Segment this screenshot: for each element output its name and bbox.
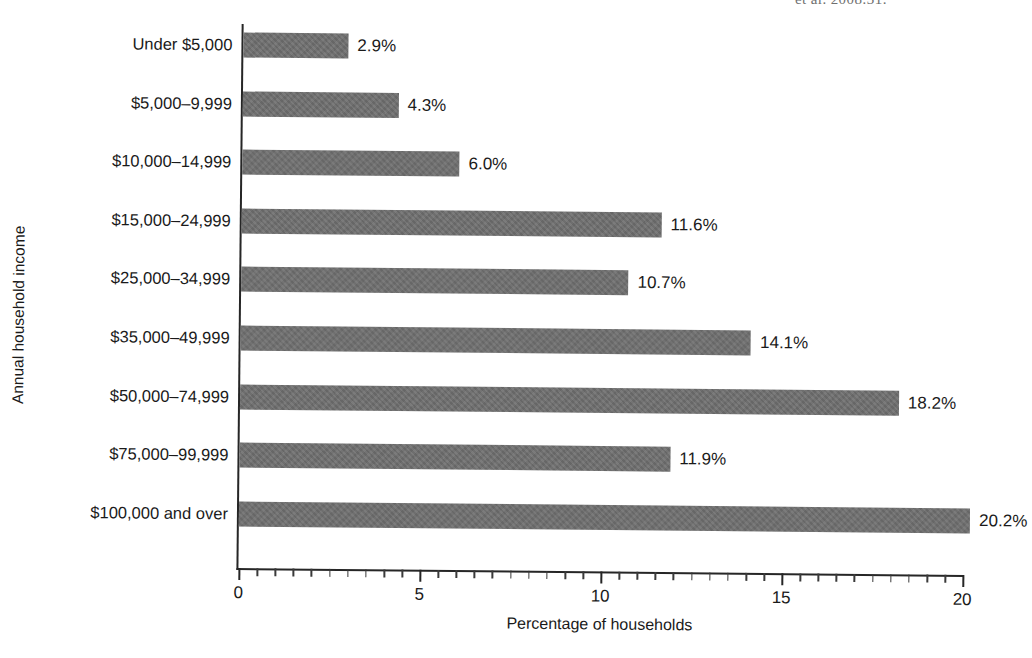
category-label: $5,000–9,999	[131, 93, 241, 113]
x-tick-minor	[546, 571, 548, 579]
x-tick-major	[781, 573, 783, 585]
x-tick-minor	[256, 568, 258, 576]
x-tick-minor	[890, 574, 892, 582]
bar-value-label: 2.9%	[348, 36, 396, 56]
bar-value-label: 6.0%	[459, 154, 507, 174]
category-label: $15,000–24,999	[111, 210, 239, 230]
x-tick-major	[962, 575, 964, 587]
bar-row: $10,000–14,9996.0%	[1, 146, 1028, 184]
bar-row: $15,000–24,99911.6%	[1, 204, 1028, 242]
bar-value-label: 20.2%	[970, 511, 1027, 532]
bar-value-label: 10.7%	[628, 273, 685, 294]
x-tick-minor	[709, 573, 711, 581]
x-tick-minor	[763, 573, 765, 581]
x-tick-major	[238, 568, 240, 580]
x-tick-minor	[528, 571, 530, 579]
x-tick-label: 15	[772, 588, 791, 608]
bar-row: $50,000–74,99918.2%	[0, 380, 1026, 418]
bar	[239, 443, 670, 472]
category-label: $10,000–14,999	[112, 151, 240, 171]
x-tick-minor	[564, 571, 566, 579]
x-tick-minor	[944, 575, 946, 583]
x-tick-minor	[365, 569, 367, 577]
x-tick-minor	[872, 574, 874, 582]
category-label: $35,000–49,999	[110, 327, 238, 347]
bar-value-label: 18.2%	[899, 393, 956, 414]
bar-row: $35,000–49,99914.1%	[0, 322, 1027, 360]
x-tick-minor	[673, 572, 675, 580]
x-tick-minor	[437, 570, 439, 578]
category-label: $75,000–99,999	[109, 444, 237, 464]
x-tick-minor	[311, 569, 313, 577]
x-tick-minor	[492, 570, 494, 578]
x-tick-minor	[727, 573, 729, 581]
x-tick-minor	[691, 572, 693, 580]
x-tick-minor	[908, 574, 910, 582]
bar	[240, 384, 899, 415]
x-axis-title: Percentage of households	[236, 612, 963, 637]
x-tick-minor	[329, 569, 331, 577]
x-tick-minor	[347, 569, 349, 577]
x-tick-minor	[275, 568, 277, 576]
bar-row: $25,000–34,99910.7%	[0, 263, 1027, 301]
bar-row: Under $5,0002.9%	[2, 29, 1029, 67]
x-tick-label: 5	[414, 585, 424, 605]
x-tick-major	[600, 571, 602, 583]
bar	[241, 326, 752, 356]
category-label: Under $5,000	[132, 34, 241, 54]
x-tick-minor	[582, 571, 584, 579]
x-tick-major	[419, 570, 421, 582]
x-tick-minor	[799, 573, 801, 581]
x-tick-minor	[510, 571, 512, 579]
x-tick-minor	[618, 572, 620, 580]
x-tick-minor	[745, 573, 747, 581]
x-tick-minor	[637, 572, 639, 580]
x-tick-label: 0	[233, 583, 243, 603]
bar-value-label: 11.6%	[662, 215, 718, 236]
x-tick-label: 10	[591, 586, 610, 606]
bar	[239, 501, 970, 533]
bar-value-label: 4.3%	[398, 95, 446, 115]
bar	[243, 33, 348, 59]
bar	[241, 267, 629, 296]
x-tick-minor	[474, 570, 476, 578]
x-tick-minor	[383, 569, 385, 577]
bar-row: $5,000–9,9994.3%	[2, 87, 1029, 125]
category-label: $25,000–34,999	[111, 269, 239, 289]
x-tick-minor	[293, 569, 295, 577]
bar-row: $75,000–99,99911.9%	[0, 439, 1026, 477]
category-label: $50,000–74,999	[110, 386, 238, 406]
bar	[242, 150, 459, 177]
x-tick-minor	[818, 574, 820, 582]
x-tick-minor	[926, 575, 928, 583]
bar	[242, 208, 662, 237]
x-tick-minor	[401, 570, 403, 578]
x-tick-minor	[854, 574, 856, 582]
category-label: $100,000 and over	[90, 503, 237, 523]
x-tick-minor	[655, 572, 657, 580]
x-tick-minor	[836, 574, 838, 582]
bar-value-label: 11.9%	[670, 449, 726, 470]
x-tick-minor	[456, 570, 458, 578]
bar-row: $100,000 and over20.2%	[0, 497, 1025, 535]
x-tick-label: 20	[953, 590, 972, 610]
bar	[243, 91, 399, 117]
bar-value-label: 14.1%	[751, 333, 808, 354]
plot-area: Annual household income Under $5,0002.9%…	[0, 0, 1030, 658]
